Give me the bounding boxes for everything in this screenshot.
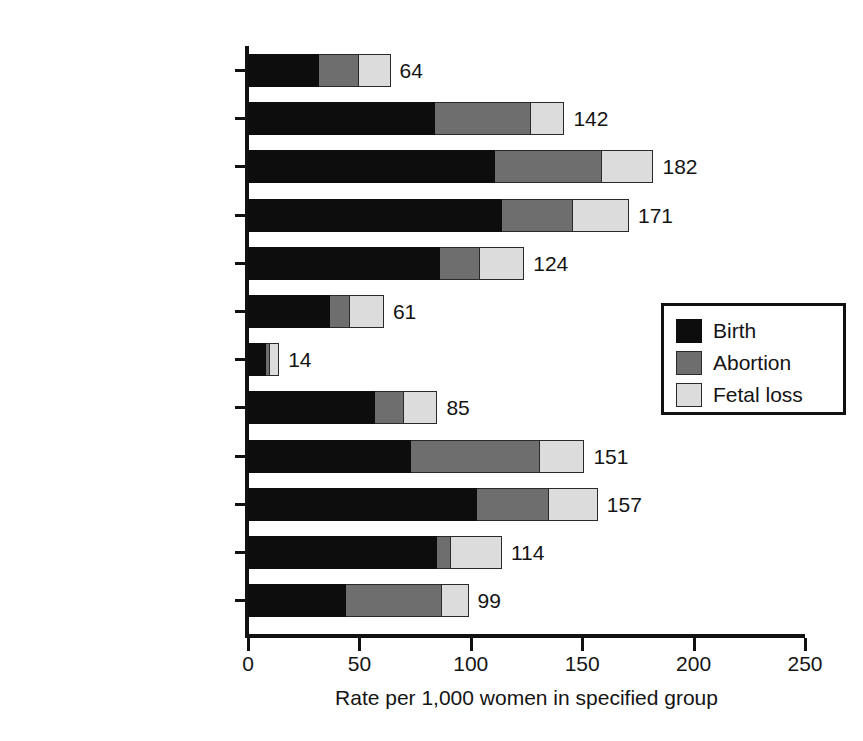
- stacked-bar: [248, 247, 524, 280]
- bar-row: Hispanic157: [248, 482, 805, 526]
- bar-total-label: 85: [446, 391, 469, 424]
- y-axis-tick: [235, 214, 248, 217]
- bar-total-label: 64: [400, 54, 423, 87]
- legend-label: Birth: [713, 319, 756, 343]
- bar-segment-fetal-loss: [573, 199, 629, 232]
- bar-total-label: 142: [573, 102, 608, 135]
- bar-total-label: 114: [511, 536, 544, 569]
- stacked-bar: [248, 102, 564, 135]
- bar-segment-birth: [248, 488, 477, 521]
- bar-segment-birth: [248, 536, 437, 569]
- bar-segment-fetal-loss: [531, 102, 564, 135]
- bar-segment-fetal-loss: [270, 343, 279, 376]
- x-axis-tick-label: 150: [542, 652, 622, 676]
- x-axis-tick-label: 0: [208, 652, 288, 676]
- stacked-bar: [248, 536, 502, 569]
- bar-segment-abortion: [346, 584, 442, 617]
- stacked-bar: [248, 150, 653, 183]
- bar-segment-abortion: [437, 536, 450, 569]
- bar-total-label: 171: [638, 199, 673, 232]
- bar-segment-fetal-loss: [480, 247, 525, 280]
- bar-segment-birth: [248, 54, 319, 87]
- x-axis-tick-label: 100: [431, 652, 511, 676]
- y-axis-tick: [235, 310, 248, 313]
- x-axis-tick: [804, 638, 807, 651]
- stacked-bar-chart: 15–176418–1914220–2418225–2917130–341243…: [0, 0, 863, 741]
- legend-label: Abortion: [713, 351, 791, 375]
- bar-row: Non-Hispanic Black151: [248, 434, 805, 478]
- bar-row: 20–24182: [248, 144, 805, 188]
- stacked-bar: [248, 199, 629, 232]
- bar-segment-fetal-loss: [451, 536, 502, 569]
- bar-row: 15–1764: [248, 48, 805, 92]
- stacked-bar: [248, 440, 584, 473]
- stacked-bar: [248, 54, 391, 87]
- y-axis-tick: [235, 503, 248, 506]
- bar-segment-fetal-loss: [442, 584, 469, 617]
- bar-segment-birth: [248, 391, 375, 424]
- y-axis-tick: [235, 551, 248, 554]
- legend-item: Fetal loss: [676, 379, 843, 410]
- legend-item: Abortion: [676, 347, 843, 378]
- bar-segment-fetal-loss: [540, 440, 585, 473]
- bar-row: 30–34124: [248, 241, 805, 285]
- x-axis-tick: [470, 638, 473, 651]
- bar-segment-fetal-loss: [602, 150, 653, 183]
- bar-segment-abortion: [319, 54, 359, 87]
- bar-segment-birth: [248, 295, 330, 328]
- y-axis-tick: [235, 69, 248, 72]
- bar-segment-fetal-loss: [549, 488, 598, 521]
- legend-item: Birth: [676, 315, 843, 346]
- bar-segment-abortion: [330, 295, 350, 328]
- bar-segment-fetal-loss: [359, 54, 390, 87]
- bar-segment-birth: [248, 584, 346, 617]
- bar-row: 25–29171: [248, 193, 805, 237]
- bar-segment-abortion: [435, 102, 531, 135]
- y-axis-tick: [235, 117, 248, 120]
- bar-total-label: 124: [533, 247, 568, 280]
- bar-row: 18–19142: [248, 96, 805, 140]
- bar-segment-birth: [248, 150, 495, 183]
- stacked-bar: [248, 295, 384, 328]
- stacked-bar: [248, 343, 279, 376]
- bar-total-label: 99: [478, 584, 501, 617]
- x-axis-tick: [693, 638, 696, 651]
- y-axis-tick: [235, 358, 248, 361]
- bar-segment-birth: [248, 102, 435, 135]
- stacked-bar: [248, 391, 437, 424]
- bar-row: Married114: [248, 530, 805, 574]
- y-axis-tick: [235, 165, 248, 168]
- x-axis-tick: [247, 638, 250, 651]
- bar-total-label: 61: [393, 295, 416, 328]
- bar-total-label: 157: [607, 488, 642, 521]
- bar-row: Unmarried99: [248, 578, 805, 622]
- bar-segment-abortion: [375, 391, 404, 424]
- bar-segment-birth: [248, 440, 411, 473]
- bar-segment-birth: [248, 199, 502, 232]
- bar-total-label: 14: [288, 343, 311, 376]
- stacked-bar: [248, 488, 598, 521]
- stacked-bar: [248, 584, 469, 617]
- y-axis-tick: [235, 455, 248, 458]
- bar-segment-fetal-loss: [350, 295, 383, 328]
- bar-segment-abortion: [502, 199, 573, 232]
- x-axis-tick: [358, 638, 361, 651]
- bar-segment-abortion: [477, 488, 548, 521]
- legend-swatch-fetal-loss: [676, 383, 702, 407]
- legend-label: Fetal loss: [713, 383, 803, 407]
- x-axis-tick: [581, 638, 584, 651]
- x-axis-tick-label: 250: [765, 652, 845, 676]
- y-axis-tick: [235, 262, 248, 265]
- bar-segment-abortion: [440, 247, 480, 280]
- bar-total-label: 182: [662, 150, 697, 183]
- bar-segment-birth: [248, 247, 440, 280]
- bar-total-label: 151: [593, 440, 628, 473]
- legend: BirthAbortionFetal loss: [661, 303, 846, 415]
- x-axis-tick-label: 200: [654, 652, 734, 676]
- x-axis-tick-label: 50: [319, 652, 399, 676]
- bar-segment-fetal-loss: [404, 391, 437, 424]
- bar-segment-abortion: [495, 150, 602, 183]
- bar-segment-abortion: [411, 440, 540, 473]
- y-axis-tick: [235, 599, 248, 602]
- bar-segment-birth: [248, 343, 266, 376]
